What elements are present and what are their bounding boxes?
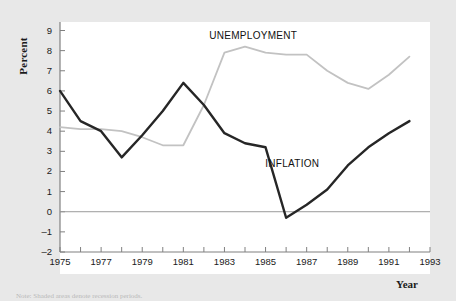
y-tick-label: 4	[34, 125, 52, 136]
x-tick-label: 1977	[83, 256, 119, 267]
series-label-inflation: INFLATION	[265, 158, 319, 169]
x-tick-label: 1991	[371, 256, 407, 267]
y-tick-label: 8	[34, 45, 52, 56]
y-tick-label: 0	[34, 206, 52, 217]
y-tick-label: 9	[34, 25, 52, 36]
y-tick-label: 6	[34, 85, 52, 96]
figure-caption: Note: Shaded areas denote recession peri…	[0, 292, 456, 301]
series-label-unemployment: UNEMPLOYMENT	[209, 30, 297, 41]
y-tick-label: –1	[34, 226, 52, 237]
figure-container: Percent Year 9876543210–1–2 197519771979…	[0, 0, 456, 301]
y-tick-label: 2	[34, 165, 52, 176]
x-tick-label: 1985	[248, 256, 284, 267]
y-tick-label: 7	[34, 65, 52, 76]
y-tick-label: 1	[34, 186, 52, 197]
y-tick-label: 3	[34, 145, 52, 156]
chart-series-lines	[60, 47, 409, 218]
x-tick-label: 1975	[42, 256, 78, 267]
x-tick-label: 1983	[206, 256, 242, 267]
x-tick-label: 1981	[165, 256, 201, 267]
chart-axes	[60, 22, 430, 252]
x-tick-label: 1987	[289, 256, 325, 267]
x-tick-label: 1993	[412, 256, 448, 267]
x-tick-label: 1979	[124, 256, 160, 267]
y-tick-label: 5	[34, 105, 52, 116]
x-tick-label: 1989	[330, 256, 366, 267]
